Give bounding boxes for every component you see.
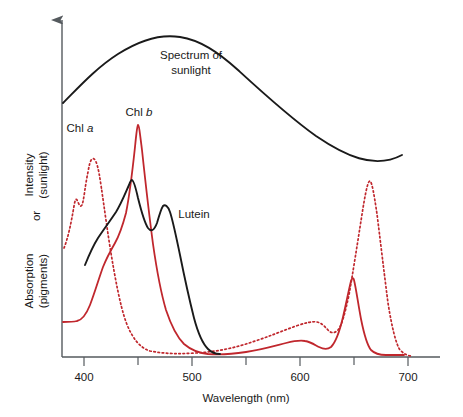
label-lutein: Lutein — [178, 208, 209, 220]
x-tick-label-500: 500 — [182, 371, 201, 383]
series-lutein — [85, 180, 220, 354]
label-chl-b-italic: b — [146, 106, 153, 118]
label-chl-a-prefix: Chl — [67, 122, 87, 134]
y-axis-title-or: or — [30, 211, 42, 221]
x-tick-label-600: 600 — [290, 371, 309, 383]
label-chl-b: Chl b — [126, 106, 153, 118]
label-spectrum-sunlight-line1: Spectrum of — [160, 49, 223, 61]
absorption-spectra-figure: 400 500 600 700 Wavelength (nm) Intensit… — [0, 0, 463, 417]
spectra-plot: 400 500 600 700 Wavelength (nm) Intensit… — [0, 0, 463, 417]
series-chl-b — [63, 125, 404, 355]
x-axis-title: Wavelength (nm) — [202, 392, 289, 404]
x-tick-label-700: 700 — [398, 371, 417, 383]
series-chl-a — [64, 159, 412, 356]
x-tick-label-400: 400 — [74, 371, 93, 383]
y-axis-title-pigments: (pigments) — [37, 254, 49, 308]
y-axis-title-intensity: Intensity — [23, 153, 35, 196]
series-sunlight — [63, 36, 402, 161]
label-chl-a: Chl a — [67, 122, 94, 134]
y-axis-title-absorption: Absorption — [23, 254, 35, 309]
label-spectrum-sunlight-line2: sunlight — [171, 64, 211, 76]
y-axis-title-sunlight: (sunlight) — [37, 151, 49, 198]
label-chl-a-italic: a — [87, 122, 93, 134]
label-chl-b-prefix: Chl — [126, 106, 146, 118]
